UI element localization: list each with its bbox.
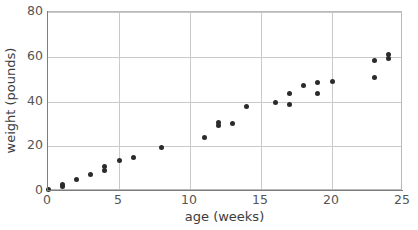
x-tick-label-15: 15 bbox=[245, 193, 275, 207]
gridline-y-80 bbox=[48, 12, 401, 13]
x-axis-line bbox=[47, 190, 403, 191]
data-point bbox=[372, 58, 377, 63]
gridline-y-60 bbox=[48, 57, 401, 58]
data-point bbox=[273, 100, 278, 105]
x-axis-title: age (weeks) bbox=[47, 209, 402, 224]
gridline-y-20 bbox=[48, 146, 401, 147]
data-point bbox=[216, 120, 221, 125]
y-axis-line bbox=[47, 11, 48, 191]
gridline-x-20 bbox=[332, 12, 333, 189]
data-point bbox=[287, 102, 292, 107]
data-point bbox=[315, 80, 320, 85]
gridline-x-15 bbox=[261, 12, 262, 189]
data-point bbox=[330, 79, 335, 84]
x-tick-label-5: 5 bbox=[103, 193, 133, 207]
gridline-x-10 bbox=[190, 12, 191, 189]
x-tick-label-10: 10 bbox=[174, 193, 204, 207]
gridline-y-40 bbox=[48, 102, 401, 103]
data-point bbox=[372, 75, 377, 80]
data-point bbox=[131, 155, 136, 160]
x-tick-label-25: 25 bbox=[387, 193, 417, 207]
scatter-plot-figure: 020406080 0510152025 age (weeks) weight … bbox=[0, 0, 418, 230]
data-point bbox=[287, 91, 292, 96]
data-point bbox=[386, 52, 391, 57]
plot-area bbox=[47, 11, 402, 190]
data-point bbox=[88, 172, 93, 177]
data-point bbox=[244, 104, 249, 109]
data-point bbox=[230, 121, 235, 126]
data-point bbox=[386, 56, 391, 61]
data-point bbox=[117, 158, 122, 163]
x-tick-label-0: 0 bbox=[32, 193, 62, 207]
y-axis-title: weight (pounds) bbox=[3, 11, 19, 190]
data-point bbox=[301, 83, 306, 88]
data-point bbox=[315, 91, 320, 96]
x-tick-label-20: 20 bbox=[316, 193, 346, 207]
data-point bbox=[159, 145, 164, 150]
data-point bbox=[74, 177, 79, 182]
data-point bbox=[202, 135, 207, 140]
data-point bbox=[60, 182, 65, 187]
